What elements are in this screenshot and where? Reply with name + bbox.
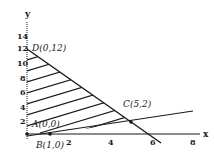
svg-text:10: 10 (17, 58, 29, 68)
y-axis-label: y (24, 9, 31, 19)
feasible-region-chart: 14 12 10 8 6 4 2 y 2 4 6 8 x D(0,12) C(5… (0, 0, 214, 161)
x-axis-label: x (203, 129, 209, 139)
label-d: D(0,12) (31, 43, 67, 53)
svg-text:2: 2 (20, 116, 26, 126)
svg-text:4: 4 (20, 102, 26, 112)
point-a (25, 132, 29, 136)
svg-text:2: 2 (66, 137, 72, 147)
label-a: A(0,0) (31, 119, 60, 129)
label-b: B(1,0) (35, 140, 64, 150)
x-tick-labels: 2 4 6 8 (66, 137, 196, 147)
svg-text:14: 14 (17, 31, 29, 41)
svg-text:8: 8 (20, 73, 26, 83)
point-c (129, 120, 133, 124)
svg-text:12: 12 (17, 43, 28, 53)
svg-text:6: 6 (20, 87, 26, 97)
svg-text:4: 4 (108, 137, 114, 147)
svg-text:8: 8 (190, 137, 196, 147)
label-c: C(5,2) (123, 99, 152, 109)
point-b (48, 132, 52, 136)
